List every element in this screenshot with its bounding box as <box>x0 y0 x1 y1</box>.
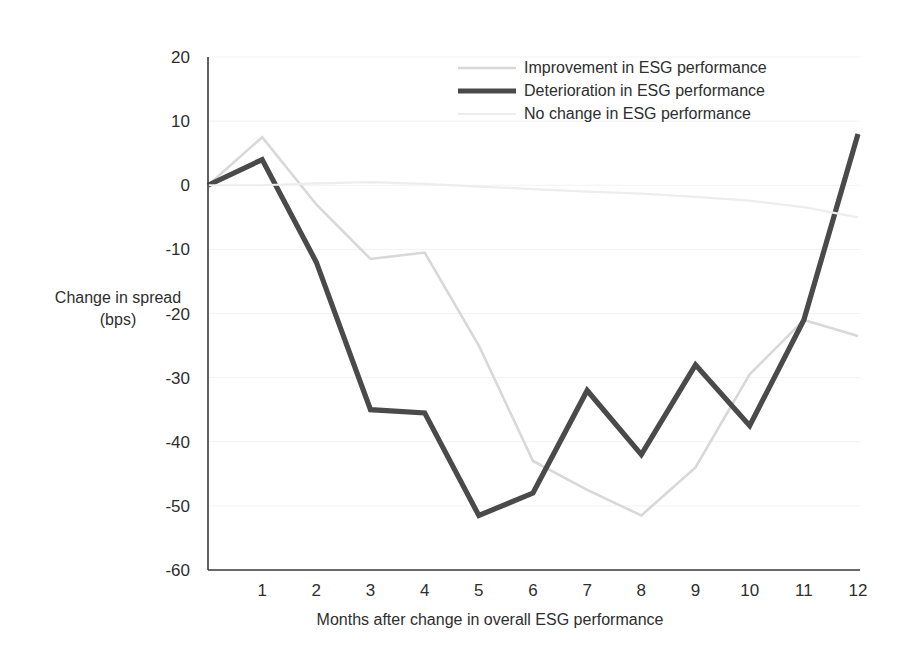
y-tick-label--50: -50 <box>165 497 190 516</box>
y-axis-title-line2: (bps) <box>100 311 136 328</box>
chart-legend: Improvement in ESG performanceDeteriorat… <box>458 59 767 122</box>
x-tick-label-3: 3 <box>366 581 375 600</box>
y-tick-label--40: -40 <box>165 433 190 452</box>
y-tick-label--60: -60 <box>165 561 190 580</box>
x-tick-label-5: 5 <box>474 581 483 600</box>
y-tick-label--30: -30 <box>165 369 190 388</box>
x-tick-label-4: 4 <box>420 581 429 600</box>
y-tick-label-0: 0 <box>181 176 190 195</box>
x-tick-label-1: 1 <box>257 581 266 600</box>
y-tick-label-10: 10 <box>171 112 190 131</box>
x-tick-label-10: 10 <box>740 581 759 600</box>
legend-label-1: Deterioration in ESG performance <box>524 82 765 99</box>
legend-label-2: No change in ESG performance <box>524 105 751 122</box>
series-line-0 <box>208 137 858 515</box>
y-axis-tick-labels: 20100-10-20-30-40-50-60 <box>165 48 190 580</box>
series-line-2 <box>208 182 858 217</box>
x-tick-label-9: 9 <box>691 581 700 600</box>
chart-container: 20100-10-20-30-40-50-60 123456789101112 … <box>0 0 904 653</box>
x-axis-tick-labels: 123456789101112 <box>257 581 867 600</box>
y-tick-label--20: -20 <box>165 305 190 324</box>
x-tick-label-2: 2 <box>312 581 321 600</box>
x-tick-label-12: 12 <box>849 581 868 600</box>
y-tick-label-20: 20 <box>171 48 190 67</box>
plot-series-group <box>208 134 858 516</box>
esg-spread-line-chart: 20100-10-20-30-40-50-60 123456789101112 … <box>0 0 904 653</box>
x-axis-title: Months after change in overall ESG perfo… <box>317 611 664 628</box>
x-tick-label-8: 8 <box>637 581 646 600</box>
x-tick-label-11: 11 <box>795 581 813 600</box>
y-axis-title-line1: Change in spread <box>55 289 181 306</box>
legend-label-0: Improvement in ESG performance <box>524 59 767 76</box>
x-tick-label-7: 7 <box>582 581 591 600</box>
x-tick-label-6: 6 <box>528 581 537 600</box>
y-tick-label--10: -10 <box>165 240 190 259</box>
